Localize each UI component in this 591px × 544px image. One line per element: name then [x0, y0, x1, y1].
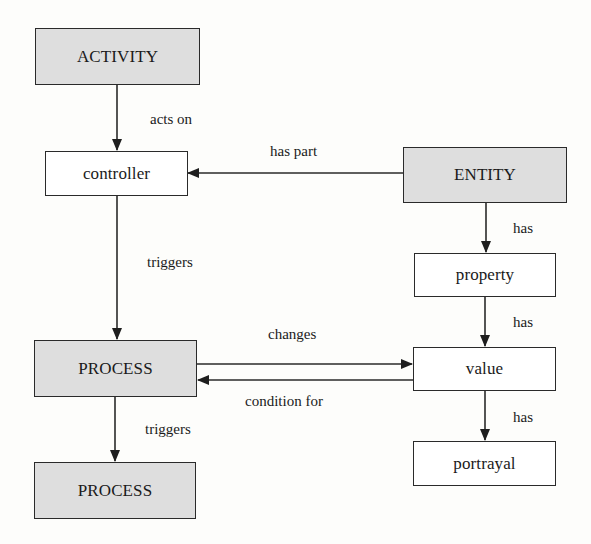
node-portrayal: portrayal — [413, 441, 556, 486]
edge-label-has-part: has part — [270, 143, 317, 160]
node-value: value — [413, 347, 556, 391]
node-entity: ENTITY — [403, 147, 567, 203]
edge-label-has-value: has — [513, 314, 533, 331]
node-activity: ACTIVITY — [35, 28, 200, 85]
edge-label-triggers-2: triggers — [145, 421, 191, 438]
node-controller: controller — [45, 151, 188, 196]
node-property: property — [414, 253, 556, 297]
edge-label-changes: changes — [268, 326, 316, 343]
edge-label-triggers-1: triggers — [147, 254, 193, 271]
edge-label-condition-for: condition for — [245, 393, 323, 410]
edge-label-acts-on: acts on — [150, 111, 192, 128]
node-process-1: PROCESS — [34, 340, 197, 397]
edge-label-has-portrayal: has — [513, 409, 533, 426]
edge-label-has-property: has — [513, 220, 533, 237]
diagram-canvas: ACTIVITY controller ENTITY property valu… — [0, 0, 591, 544]
node-process-2: PROCESS — [34, 462, 196, 519]
